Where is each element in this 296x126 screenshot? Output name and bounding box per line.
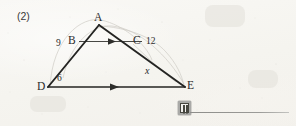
unknown-label-ce: x: [145, 66, 149, 76]
answer-row: [176, 99, 291, 117]
vertex-label-c: C: [133, 35, 141, 47]
length-label-ac: 12: [146, 37, 156, 47]
vertex-label-e: E: [187, 80, 194, 92]
pencil-arcs: [50, 20, 184, 88]
length-label-bd: 6: [57, 74, 62, 84]
side-AE: [99, 25, 185, 87]
segment-de: [48, 83, 185, 90]
vertex-label-b: B: [68, 35, 76, 47]
book-icon-glyph: [180, 103, 189, 113]
vertex-label-a: A: [94, 12, 102, 24]
length-label-ab: 9: [56, 39, 61, 49]
answer-blank-line: [190, 112, 289, 113]
vertex-label-d: D: [37, 81, 45, 93]
worksheet-page: (2) A B C D E 9 12 6 x: [0, 0, 296, 126]
problem-number: (2): [17, 11, 30, 22]
